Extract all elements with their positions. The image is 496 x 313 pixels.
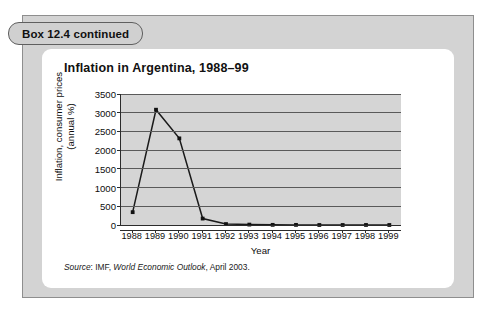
x-axis-tick-labels: 1988198919901991199219931994199519961997… [120, 230, 401, 246]
y-tick-mark [117, 187, 121, 188]
source-note: Source: IMF, World Economic Outlook, Apr… [64, 262, 250, 272]
figure-title: Inflation in Argentina, 1988–99 [64, 61, 249, 75]
y-tick-mark [117, 112, 121, 113]
source-separator: : IMF, [91, 262, 114, 272]
source-prefix: Source [64, 262, 91, 272]
y-axis-title: Inflation, consumer prices (annual %) [53, 67, 76, 187]
y-tick-label: 3000 [95, 107, 116, 118]
y-tick-label: 2500 [95, 126, 116, 137]
y-tick-mark [117, 150, 121, 151]
figure-card: Inflation in Argentina, 1988–99 05001000… [42, 49, 454, 288]
box-tag-label: Box 12.4 continued [22, 28, 129, 40]
y-tick-mark [117, 94, 121, 95]
y-tick-mark [117, 206, 121, 207]
data-point-marker [177, 136, 181, 140]
y-tick-mark [117, 131, 121, 132]
source-publication: World Economic Outlook [113, 262, 205, 272]
data-point-marker [201, 217, 205, 221]
x-axis-line [120, 230, 401, 231]
y-tick-label: 3500 [95, 89, 116, 100]
y-tick-label: 500 [100, 201, 116, 212]
y-axis-title-line1: Inflation, consumer prices [53, 72, 64, 181]
chart: 0500100015002000250030003500 Inflation, … [42, 89, 454, 259]
y-tick-label: 0 [111, 220, 116, 231]
y-tick-mark [117, 168, 121, 169]
source-suffix: , April 2003. [206, 262, 250, 272]
data-point-marker [154, 108, 158, 112]
plot-area [120, 94, 401, 225]
data-point-marker [131, 210, 135, 214]
y-tick-mark [117, 225, 121, 226]
gridline [121, 225, 401, 226]
x-axis-title: Year [120, 245, 401, 256]
y-tick-label: 2000 [95, 145, 116, 156]
gridline [121, 150, 401, 151]
y-axis-title-line2: (annual %) [64, 103, 75, 149]
gridline [121, 206, 401, 207]
gridline [121, 168, 401, 169]
gridline [121, 187, 401, 188]
gridline [121, 131, 401, 132]
y-tick-label: 1000 [95, 182, 116, 193]
gridline [121, 94, 401, 95]
y-axis-tick-labels: 0500100015002000250030003500 [82, 89, 116, 230]
box-tag-badge: Box 12.4 continued [8, 22, 143, 45]
y-tick-label: 1500 [95, 163, 116, 174]
page-root: Box 12.4 continued Inflation in Argentin… [0, 0, 496, 313]
gridline [121, 112, 401, 113]
